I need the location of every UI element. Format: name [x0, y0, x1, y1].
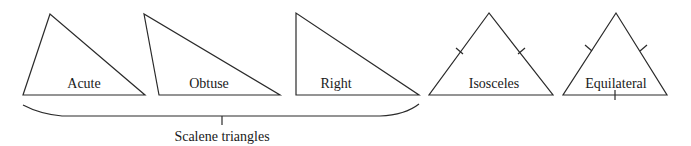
right-label: Right — [320, 77, 351, 91]
equilateral-label: Equilateral — [585, 77, 646, 91]
diagram-svg — [0, 0, 691, 146]
obtuse-label: Obtuse — [189, 77, 229, 91]
right-triangle — [296, 13, 419, 95]
scalene-group-brace — [23, 104, 419, 116]
acute-label: Acute — [67, 77, 100, 91]
equilateral-tick-marks — [585, 45, 647, 100]
scalene-group-label: Scalene triangles — [174, 130, 269, 144]
isosceles-tick-marks — [456, 48, 525, 54]
isosceles-label: Isosceles — [469, 77, 520, 91]
triangle-classification-diagram: Acute Obtuse Right Isosceles Equilateral… — [0, 0, 691, 146]
